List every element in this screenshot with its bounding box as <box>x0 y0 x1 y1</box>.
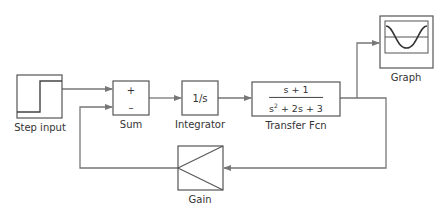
integrator-content: 1/s <box>193 93 208 104</box>
transfer-fcn-expression: s + 1 s2 + 2s + 3 <box>269 83 323 115</box>
line-gain-to-sum[interactable] <box>80 107 178 168</box>
graph-label: Graph <box>391 72 422 83</box>
tf-numerator: s + 1 <box>269 83 323 98</box>
sum-label: Sum <box>120 119 142 130</box>
step-input-block[interactable] <box>17 75 62 118</box>
step-input-label: Step input <box>14 122 66 133</box>
sum-minus-port: – <box>129 102 134 113</box>
gain-block[interactable] <box>178 146 223 190</box>
transfer-fcn-label: Transfer Fcn <box>266 120 327 131</box>
line-tf-to-graph[interactable] <box>340 43 379 98</box>
integrator-label: Integrator <box>175 119 225 130</box>
gain-label: Gain <box>189 194 212 205</box>
sum-plus-port: + <box>127 85 135 96</box>
graph-block[interactable] <box>380 16 433 68</box>
scope-wave-icon <box>385 21 428 53</box>
tf-denominator: s2 + 2s + 3 <box>269 98 323 115</box>
block-diagram-canvas <box>0 0 447 214</box>
